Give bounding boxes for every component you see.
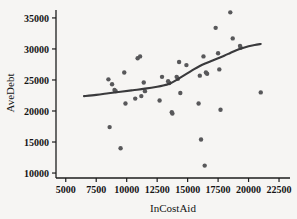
scatter-point	[178, 91, 182, 95]
x-tick-label: 12500	[145, 184, 170, 195]
x-tick-label: 7500	[86, 184, 106, 195]
scatter-point	[217, 67, 221, 71]
scatter-point	[142, 80, 146, 84]
scatter-point	[259, 90, 263, 94]
scatter-point	[177, 60, 181, 64]
scatter-point	[205, 72, 209, 76]
scatter-point	[196, 101, 200, 105]
x-tick-label: 17500	[206, 184, 231, 195]
scatter-point	[122, 70, 126, 74]
scatter-point	[213, 26, 217, 30]
scatter-point	[110, 82, 114, 86]
x-tick-label: 20000	[236, 184, 261, 195]
y-tick-label: 30000	[24, 44, 49, 55]
x-tick-label: 5000	[56, 184, 76, 195]
y-tick-label: 20000	[24, 106, 49, 117]
x-tick-label: 22500	[267, 184, 292, 195]
x-tick-label: 15000	[175, 184, 200, 195]
y-tick-label: 10000	[24, 168, 49, 179]
y-tick-label: 25000	[24, 75, 49, 86]
scatter-point	[157, 98, 161, 102]
scatter-point	[202, 163, 206, 167]
scatter-point	[228, 10, 232, 14]
scatter-point	[231, 36, 235, 40]
scatter-plot-figure: 100001500020000250003000035000 500075001…	[0, 0, 297, 219]
scatter-point	[218, 108, 222, 112]
y-axis-title: AveDebt	[4, 74, 16, 113]
x-tick-label: 10000	[114, 184, 139, 195]
scatter-point	[170, 111, 174, 115]
x-axis-title: InCostAid	[150, 202, 196, 214]
plot-canvas: 100001500020000250003000035000 500075001…	[0, 0, 297, 219]
scatter-point	[216, 51, 220, 55]
y-tick-label: 15000	[24, 137, 49, 148]
scatter-point	[123, 101, 127, 105]
scatter-point	[184, 63, 188, 67]
y-tick-label: 35000	[24, 13, 49, 24]
scatter-point	[106, 77, 110, 81]
scatter-point	[160, 75, 164, 79]
scatter-point	[118, 146, 122, 150]
scatter-point	[107, 125, 111, 129]
scatter-point	[198, 73, 202, 77]
scatter-point	[139, 94, 143, 98]
scatter-point	[133, 96, 137, 100]
scatter-point	[138, 54, 142, 58]
scatter-point	[199, 137, 203, 141]
scatter-point	[201, 54, 205, 58]
